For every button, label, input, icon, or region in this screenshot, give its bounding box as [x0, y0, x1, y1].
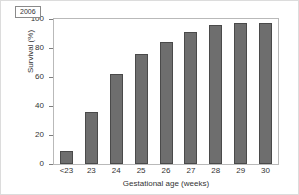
y-tick-mark — [49, 164, 53, 165]
bar-slot — [154, 19, 179, 164]
y-tick-label: 40 — [35, 101, 44, 110]
x-tick-label: 24 — [104, 166, 129, 175]
x-tick-label: 26 — [154, 166, 179, 175]
bar — [209, 25, 222, 164]
x-tick-label: 25 — [129, 166, 154, 175]
chart-figure: Survival (%) 100 80 60 40 20 0 <2323242 — [0, 0, 299, 195]
bar — [259, 23, 272, 164]
legend-year-box: 2006 — [15, 6, 41, 18]
y-tick-mark — [49, 106, 53, 107]
y-tick-label: 20 — [35, 130, 44, 139]
bar-slot — [79, 19, 104, 164]
bar-slot — [253, 19, 278, 164]
bar-slot — [228, 19, 253, 164]
bar — [85, 112, 98, 164]
bar-slot — [203, 19, 228, 164]
bar — [135, 54, 148, 164]
bar — [60, 151, 73, 164]
x-tick-label: 23 — [79, 166, 104, 175]
bar — [160, 42, 173, 164]
bar-slot — [104, 19, 129, 164]
x-tick-label: 27 — [178, 166, 203, 175]
y-tick-mark — [49, 77, 53, 78]
bar-slot — [178, 19, 203, 164]
x-tick-label: 29 — [228, 166, 253, 175]
y-tick-label: 60 — [35, 72, 44, 81]
bar-series — [54, 19, 278, 164]
bar — [110, 74, 123, 164]
bar — [184, 32, 197, 164]
y-tick-mark — [49, 135, 53, 136]
y-tick-label: 80 — [35, 43, 44, 52]
x-tick-label: 30 — [253, 166, 278, 175]
x-tick-label: <23 — [54, 166, 79, 175]
x-axis-title: Gestational age (weeks) — [53, 179, 279, 188]
bar — [234, 23, 247, 164]
bar-slot — [54, 19, 79, 164]
legend-label: 2006 — [20, 8, 36, 15]
bar-slot — [129, 19, 154, 164]
x-tick-label: 28 — [203, 166, 228, 175]
y-tick-mark — [49, 48, 53, 49]
y-tick-mark — [49, 19, 53, 20]
y-tick-label: 0 — [40, 159, 44, 168]
x-axis-ticks: <232324252627282930 — [54, 166, 278, 175]
